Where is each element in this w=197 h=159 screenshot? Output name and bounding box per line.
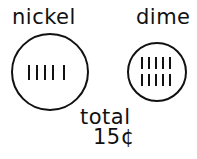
dime-tally-marks: [142, 57, 170, 86]
dime-circle: [128, 43, 186, 101]
nickel-tally-marks: [29, 65, 64, 80]
nickel-circle: [12, 34, 88, 110]
total-value: 15¢: [93, 127, 135, 148]
